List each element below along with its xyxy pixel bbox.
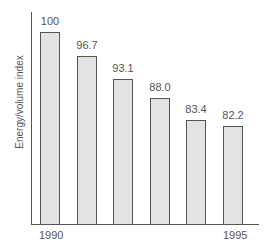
x-axis bbox=[31, 224, 259, 225]
bar-value-label: 82.2 bbox=[213, 109, 253, 121]
bar-value-label: 100 bbox=[30, 15, 70, 27]
bar-1995 bbox=[223, 126, 243, 224]
bar-1994 bbox=[186, 120, 206, 224]
bar-1990 bbox=[40, 32, 60, 224]
x-tick-label: 1990 bbox=[39, 229, 63, 241]
bar-value-label: 93.1 bbox=[103, 62, 143, 74]
bar-value-label: 96.7 bbox=[67, 39, 107, 51]
x-tick-label: 1995 bbox=[223, 229, 247, 241]
bar-1992 bbox=[113, 79, 133, 224]
y-axis bbox=[31, 12, 32, 225]
y-axis-label: Energy/volume index bbox=[14, 55, 25, 148]
bar-value-label: 83.4 bbox=[176, 103, 216, 115]
bar-1993 bbox=[150, 98, 170, 224]
bar-value-label: 88.0 bbox=[140, 81, 180, 93]
bar-1991 bbox=[77, 56, 97, 224]
